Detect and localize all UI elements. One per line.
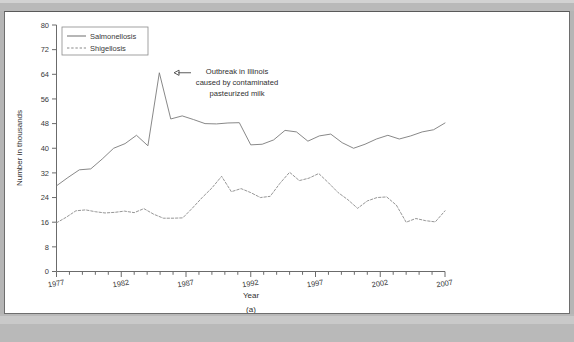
y-tick-label: 64	[41, 70, 49, 79]
x-axis-ticks	[57, 272, 446, 278]
y-axis-ticks	[52, 25, 57, 272]
y-axis-title: Number in thousands	[15, 110, 24, 186]
x-tick-label: 1997	[306, 278, 324, 289]
x-tick-label: 1982	[112, 278, 130, 289]
chart-annotation: Outbreak in Illinois caused by contamina…	[174, 67, 278, 98]
annotation-line-3: pasteurized milk	[210, 89, 265, 98]
x-tick-label: 1992	[241, 278, 259, 289]
y-tick-label: 40	[41, 144, 49, 153]
x-tick-label: 1977	[47, 278, 65, 289]
annotation-line-1: Outbreak in Illinois	[206, 67, 269, 76]
x-axis-tick-labels: 1977198219871992199720022007	[47, 278, 453, 289]
y-tick-label: 56	[41, 95, 49, 104]
series-line-shigellosis	[57, 172, 446, 223]
annotation-line-2: caused by contaminated	[196, 78, 278, 87]
y-tick-label: 24	[41, 193, 49, 202]
bottom-frame-highlight	[0, 316, 574, 324]
y-axis-tick-labels: 08162432404856647280	[41, 21, 49, 276]
y-tick-label: 80	[41, 21, 49, 30]
figure-caption: (a)	[246, 305, 256, 314]
y-tick-label: 0	[45, 267, 49, 276]
x-tick-label: 1987	[177, 278, 195, 289]
y-tick-label: 8	[45, 243, 49, 252]
top-frame-band	[0, 0, 574, 11]
y-tick-label: 32	[41, 169, 49, 178]
legend-label-shigellosis: Shigellosis	[90, 44, 126, 53]
legend-label-salmonellosis: Salmonellosis	[90, 32, 137, 41]
x-tick-label: 2002	[371, 278, 389, 289]
bottom-frame-band	[0, 314, 574, 342]
x-axis-title: Year	[243, 291, 260, 300]
chart-figure: 08162432404856647280 1977198219871992199…	[5, 12, 570, 314]
y-tick-label: 72	[41, 45, 49, 54]
top-frame-highlight	[0, 0, 574, 3]
y-tick-label: 16	[41, 218, 49, 227]
page-root: 08162432404856647280 1977198219871992199…	[0, 0, 574, 342]
figure-sheet: 08162432404856647280 1977198219871992199…	[4, 11, 570, 314]
y-tick-label: 48	[41, 119, 49, 128]
line-chart: 08162432404856647280 1977198219871992199…	[5, 12, 570, 314]
x-tick-label: 2007	[436, 278, 454, 289]
chart-legend: Salmonellosis Shigellosis	[62, 27, 148, 55]
